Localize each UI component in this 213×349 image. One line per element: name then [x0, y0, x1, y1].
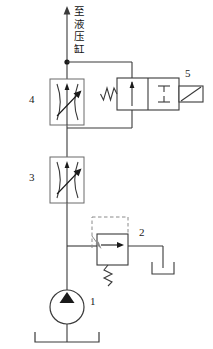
- caption-char-2: 液: [72, 18, 86, 31]
- valve5-spring-zigzag: [101, 88, 118, 100]
- to-hydraulic-cylinder-caption: 至 液 压 缸: [72, 5, 86, 55]
- supply-flow-arrowhead: [64, 6, 71, 15]
- valve5-inlet-branch: [67, 62, 132, 78]
- label-directional-valve-5: 5: [185, 68, 191, 79]
- label-throttle-valve-4: 4: [29, 94, 35, 105]
- label-pump-1: 1: [90, 296, 96, 307]
- relief2-spring: [104, 265, 112, 286]
- caption-char-4: 缸: [72, 43, 86, 56]
- throttle-valve-4[interactable]: [50, 79, 84, 125]
- hydraulic-pump-1[interactable]: [50, 290, 84, 342]
- throttle-valve-3[interactable]: [50, 157, 84, 203]
- caption-char-1: 至: [72, 5, 86, 18]
- label-throttle-valve-3: 3: [29, 172, 35, 183]
- valve5-spring-actuator: [101, 88, 118, 100]
- directional-valve-5[interactable]: [101, 78, 204, 110]
- relief-valve-2[interactable]: [67, 217, 163, 286]
- relief2-body: [97, 234, 128, 265]
- hydraulic-schematic-diagram: 至 液 压 缸 4 3 5 2 1: [0, 0, 213, 349]
- caption-char-3: 压: [72, 30, 86, 43]
- label-relief-valve-2: 2: [139, 227, 145, 238]
- valve5-solenoid-actuator: [179, 86, 203, 102]
